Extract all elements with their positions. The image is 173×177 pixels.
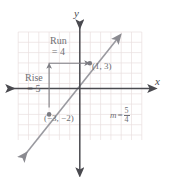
run-label-line2: = 4 bbox=[50, 47, 67, 58]
slope-fraction: 5 4 bbox=[124, 107, 130, 124]
x-axis-label: x bbox=[155, 76, 160, 88]
rise-label-line2: = 5 bbox=[25, 84, 43, 95]
slope-equation: m = 5 4 bbox=[110, 107, 130, 124]
plotted-line bbox=[24, 38, 118, 156]
run-label-line1: Run bbox=[50, 35, 67, 46]
slope-numerator: 5 bbox=[124, 107, 130, 115]
point-label-1: (1, 3) bbox=[92, 62, 112, 71]
rise-label-line1: Rise bbox=[25, 72, 43, 83]
slope-denominator: 4 bbox=[124, 115, 130, 124]
slope-variable: m bbox=[110, 111, 117, 120]
axes bbox=[10, 24, 152, 172]
y-axis-label: y bbox=[74, 8, 79, 20]
point-label-2: (−3, −2) bbox=[44, 114, 74, 123]
run-annotation: Run = 4 bbox=[50, 36, 67, 57]
slope-equals-sign: = bbox=[118, 111, 123, 120]
rise-annotation: Rise = 5 bbox=[25, 73, 43, 94]
